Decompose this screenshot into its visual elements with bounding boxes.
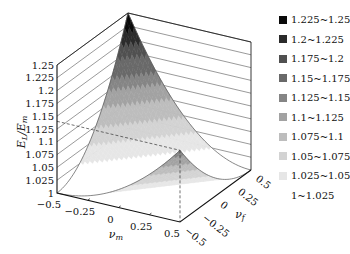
y-tick-label: 0.5: [254, 173, 273, 191]
z-tick-label: 1.075: [25, 149, 54, 160]
legend-item: 1.15~1.175: [279, 69, 350, 89]
surface: [57, 13, 251, 196]
x-tick-label: 0.25: [130, 221, 152, 232]
z-tick-label: 1.175: [25, 98, 54, 109]
z-tick-label: 1.2: [38, 85, 54, 96]
y-tick-label: −0.5: [183, 225, 209, 249]
legend-label: 1.175~1.2: [291, 53, 344, 64]
x-tick-label: −0.5: [37, 199, 61, 210]
legend-swatch: [279, 55, 287, 63]
z-tick-label: 1.25: [32, 60, 54, 71]
legend-swatch: [279, 191, 287, 199]
z-tick-label: 1.125: [25, 124, 54, 135]
legend-item: 1~1.025: [279, 186, 350, 206]
legend-label: 1.15~1.175: [291, 73, 350, 84]
x-tick-label: 0.5: [164, 228, 180, 239]
legend-label: 1.125~1.15: [291, 92, 350, 103]
legend-item: 1.125~1.15: [279, 88, 350, 108]
legend-item: 1.175~1.2: [279, 49, 350, 69]
legend-label: 1.05~1.075: [291, 151, 350, 162]
x-axis-label: νm: [109, 228, 124, 242]
legend-item: 1.025~1.05: [279, 166, 350, 186]
legend-swatch: [279, 172, 287, 180]
legend-swatch: [279, 16, 287, 24]
legend-item: 1.2~1.225: [279, 30, 350, 50]
legend-item: 1.1~1.125: [279, 108, 350, 128]
legend-label: 1.025~1.05: [291, 170, 350, 181]
surface-plot: 11.0251.051.0751.11.1251.151.1751.21.225…: [0, 0, 275, 254]
y-tick-label: 0.25: [236, 186, 260, 208]
legend-swatch: [279, 94, 287, 102]
legend-label: 1.1~1.125: [291, 112, 344, 123]
legend-label: 1.2~1.225: [291, 34, 344, 45]
z-tick-label: 1.025: [25, 175, 54, 186]
legend-item: 1.05~1.075: [279, 147, 350, 167]
z-tick-label: 1.1: [38, 136, 54, 147]
legend-label: 1.225~1.25: [291, 14, 350, 25]
legend-swatch: [279, 74, 287, 82]
z-axis-label: EL/Em: [15, 115, 29, 149]
y-tick-label: 0: [218, 199, 230, 212]
x-tick-label: −0.25: [64, 206, 95, 217]
legend-item: 1.075~1.1: [279, 127, 350, 147]
legend-swatch: [279, 35, 287, 43]
y-axis-label: νf: [235, 208, 247, 222]
legend-swatch: [279, 113, 287, 121]
z-tick-label: 1.15: [32, 111, 54, 122]
z-tick-label: 1: [48, 188, 54, 199]
legend-label: 1~1.025: [291, 190, 334, 201]
legend-label: 1.075~1.1: [291, 131, 344, 142]
legend-swatch: [279, 152, 287, 160]
y-tick-label: −0.25: [201, 212, 232, 240]
legend: 1.225~1.251.2~1.2251.175~1.21.15~1.1751.…: [279, 10, 350, 205]
legend-item: 1.225~1.25: [279, 10, 350, 30]
x-tick-label: 0: [107, 214, 113, 225]
z-tick-label: 1.225: [25, 72, 54, 83]
z-tick-label: 1.05: [32, 162, 54, 173]
legend-swatch: [279, 133, 287, 141]
